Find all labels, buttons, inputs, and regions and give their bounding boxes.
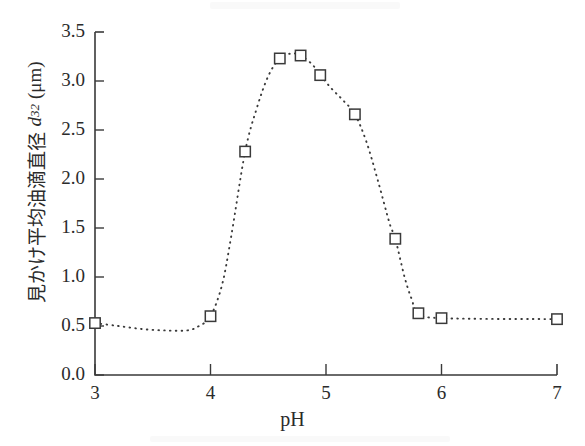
data-point-marker <box>205 311 215 321</box>
data-markers <box>90 50 562 328</box>
data-point-marker <box>275 53 285 63</box>
data-point-marker <box>295 50 305 60</box>
data-point-marker <box>315 70 325 80</box>
plot-canvas <box>0 0 585 446</box>
data-point-marker <box>436 313 446 323</box>
y-tick-label: 1.0 <box>37 265 85 287</box>
x-tick-label: 3 <box>80 382 110 404</box>
x-tick-label: 6 <box>427 382 457 404</box>
x-axis-title: pH <box>0 408 585 431</box>
data-point-marker <box>390 234 400 244</box>
y-tick-label: 3.0 <box>37 69 85 91</box>
y-tick-label: 0.5 <box>37 314 85 336</box>
data-curve <box>95 53 557 330</box>
data-point-marker <box>240 146 250 156</box>
axis-ticks <box>95 81 442 375</box>
data-point-marker <box>350 109 360 119</box>
data-point-marker <box>90 318 100 328</box>
x-tick-label: 4 <box>196 382 226 404</box>
oil-droplet-diameter-vs-ph-chart: 見かけ平均油滴直径d32(μm) pH 0.00.51.01.52.02.53.… <box>0 0 585 446</box>
y-tick-label: 2.0 <box>37 167 85 189</box>
data-point-marker <box>413 308 423 318</box>
y-tick-label: 0.0 <box>37 363 85 385</box>
y-tick-label: 3.5 <box>37 20 85 42</box>
y-tick-label: 1.5 <box>37 216 85 238</box>
y-axis-symbol-subscript: 32 <box>27 104 43 117</box>
x-tick-label: 5 <box>311 382 341 404</box>
y-tick-label: 2.5 <box>37 118 85 140</box>
data-point-marker <box>552 314 562 324</box>
figure-page: 見かけ平均油滴直径d32(μm) pH 0.00.51.01.52.02.53.… <box>0 0 585 446</box>
axes <box>95 32 557 375</box>
x-tick-label: 7 <box>542 382 572 404</box>
